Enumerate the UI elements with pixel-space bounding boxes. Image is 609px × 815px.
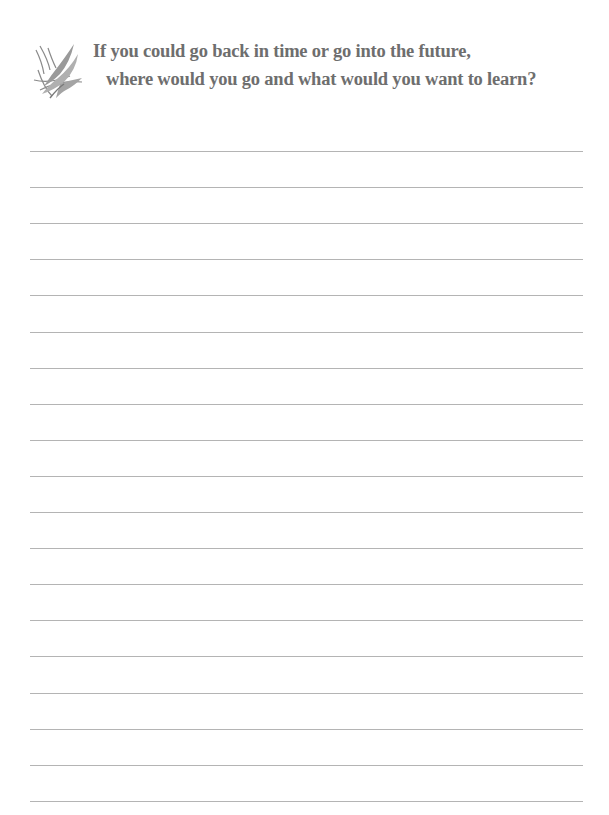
writing-line — [30, 404, 583, 405]
writing-line — [30, 656, 583, 657]
writing-line — [30, 440, 583, 441]
writing-line — [30, 295, 583, 296]
writing-line — [30, 729, 583, 730]
writing-line — [30, 620, 583, 621]
writing-line — [30, 151, 583, 152]
writing-line — [30, 368, 583, 369]
writing-line — [30, 223, 583, 224]
writing-line — [30, 584, 583, 585]
writing-line — [30, 512, 583, 513]
writing-line — [30, 259, 583, 260]
writing-line — [30, 765, 583, 766]
writing-line — [30, 187, 583, 188]
writing-line — [30, 548, 583, 549]
writing-line — [30, 476, 583, 477]
writing-line — [30, 332, 583, 333]
writing-line — [30, 693, 583, 694]
writing-line — [30, 801, 583, 802]
lined-writing-area[interactable] — [0, 0, 609, 815]
